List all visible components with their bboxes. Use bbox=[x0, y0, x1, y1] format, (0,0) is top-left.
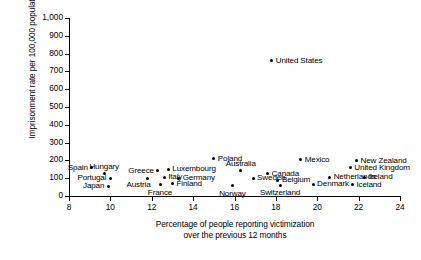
x-axis-tick-label: 12 bbox=[142, 202, 162, 212]
data-point-marker bbox=[109, 177, 112, 180]
y-axis-tick-label: 200 bbox=[49, 154, 63, 164]
data-point-label: France bbox=[148, 189, 172, 197]
x-axis-title-line-1: Percentage of people reporting victimiza… bbox=[69, 219, 401, 230]
data-point-label: Iceland bbox=[356, 181, 381, 189]
data-point-marker bbox=[167, 168, 170, 171]
data-point-label: Australia bbox=[226, 160, 256, 168]
data-point-marker bbox=[171, 182, 174, 185]
y-axis-tick-label: 400 bbox=[49, 119, 63, 129]
data-point-marker bbox=[349, 166, 352, 169]
data-point-label: Mexico bbox=[305, 156, 330, 164]
data-point-marker bbox=[231, 184, 234, 187]
data-point-label: Germany bbox=[183, 174, 215, 182]
data-point-label: Switzerland bbox=[260, 189, 300, 197]
plot-area: 01002003004005006007008009001,000 810121… bbox=[69, 18, 400, 196]
y-axis-title: Imprisonment rate per 100,000 population bbox=[28, 0, 37, 159]
data-point-label: Norway bbox=[219, 190, 246, 198]
y-axis-tick: 1,000 bbox=[65, 18, 69, 19]
y-axis-tick-label: 600 bbox=[49, 83, 63, 93]
data-point-marker bbox=[159, 183, 162, 186]
x-axis-title: Percentage of people reporting victimiza… bbox=[69, 219, 401, 241]
data-point-marker bbox=[328, 176, 331, 179]
y-axis-tick: 300 bbox=[65, 143, 69, 144]
x-axis-tick: 10 bbox=[110, 197, 111, 201]
data-point-marker bbox=[312, 183, 315, 186]
y-axis-tick: 200 bbox=[65, 160, 69, 161]
x-axis-tick-label: 20 bbox=[307, 202, 327, 212]
data-point-marker bbox=[212, 157, 215, 160]
x-axis-tick: 24 bbox=[400, 197, 401, 201]
x-axis-tick-label: 22 bbox=[349, 202, 369, 212]
data-point-marker bbox=[156, 169, 159, 172]
x-axis-tick-label: 14 bbox=[183, 202, 203, 212]
data-point-marker bbox=[252, 177, 255, 180]
data-point-label: Denmark bbox=[317, 180, 349, 188]
y-axis-tick: 700 bbox=[65, 71, 69, 72]
data-point-marker bbox=[177, 177, 180, 180]
data-point-label: Belgium bbox=[282, 176, 310, 184]
data-point-label: Spain bbox=[68, 164, 88, 172]
x-axis-tick-label: 10 bbox=[100, 202, 120, 212]
data-point-label: United States bbox=[276, 57, 323, 65]
x-axis-tick-label: 24 bbox=[390, 202, 410, 212]
y-axis-tick-label: 900 bbox=[49, 30, 63, 40]
data-point-label: Greece bbox=[128, 167, 154, 175]
y-axis-tick-label: 700 bbox=[49, 65, 63, 75]
x-axis-tick: 12 bbox=[152, 197, 153, 201]
y-axis-tick: 100 bbox=[65, 178, 69, 179]
data-point-marker bbox=[299, 158, 302, 161]
x-axis-tick-label: 8 bbox=[59, 202, 79, 212]
y-axis-tick-label: 1,000 bbox=[42, 12, 63, 22]
y-axis-tick: 500 bbox=[65, 107, 69, 108]
x-axis-tick: 20 bbox=[317, 197, 318, 201]
data-point-marker bbox=[163, 176, 166, 179]
y-axis-tick: 400 bbox=[65, 125, 69, 126]
data-point-marker bbox=[107, 185, 110, 188]
x-axis-tick: 8 bbox=[69, 197, 70, 201]
data-point-marker bbox=[270, 59, 273, 62]
x-axis-title-line-2: over the previous 12 months bbox=[69, 230, 401, 241]
data-point-label: Luxembourg bbox=[172, 165, 216, 173]
y-axis-tick: 800 bbox=[65, 54, 69, 55]
x-axis-tick-label: 18 bbox=[266, 202, 286, 212]
y-axis-tick-label: 800 bbox=[49, 48, 63, 58]
x-axis-tick: 18 bbox=[276, 197, 277, 201]
y-axis-tick: 600 bbox=[65, 89, 69, 90]
scatter-plot-figure: Imprisonment rate per 100,000 population… bbox=[0, 0, 421, 260]
y-axis-tick-label: 100 bbox=[49, 172, 63, 182]
x-axis-tick: 14 bbox=[193, 197, 194, 201]
y-axis-tick-label: 500 bbox=[49, 101, 63, 111]
x-axis-tick-label: 16 bbox=[225, 202, 245, 212]
data-point-marker bbox=[351, 183, 354, 186]
data-point-label: Hungary bbox=[89, 163, 119, 171]
y-axis-tick-label: 0 bbox=[58, 190, 63, 200]
data-point-label: Japan bbox=[83, 182, 104, 190]
data-point-label: United Kingdom bbox=[354, 164, 410, 172]
y-axis-tick-label: 300 bbox=[49, 137, 63, 147]
x-axis-tick: 22 bbox=[359, 197, 360, 201]
data-point-marker bbox=[239, 169, 242, 172]
y-axis-tick: 900 bbox=[65, 36, 69, 37]
